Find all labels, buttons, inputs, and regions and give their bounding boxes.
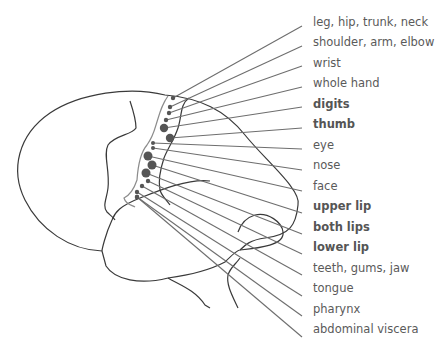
sylvian-fissure: [102, 181, 210, 251]
body-part-label: face: [313, 179, 338, 193]
body-part-label: thumb: [313, 117, 355, 131]
leader-line: [166, 87, 302, 120]
leader-line: [148, 181, 302, 254]
temporal-lobe-outline: [102, 214, 283, 281]
body-part-label: abdominal viscera: [313, 322, 418, 336]
region-dot: [142, 169, 151, 178]
leader-line: [170, 46, 302, 107]
region-dot: [144, 152, 153, 161]
region-dot: [135, 195, 139, 199]
body-part-label: tongue: [313, 281, 354, 295]
leader-line: [137, 192, 302, 296]
body-part-label: nose: [313, 158, 340, 172]
region-dot: [151, 146, 155, 150]
region-dot: [135, 190, 139, 194]
region-dot: [167, 111, 171, 115]
body-part-label: digits: [313, 97, 350, 111]
region-dot: [160, 124, 168, 132]
body-part-label: upper lip: [313, 199, 371, 213]
leader-line: [153, 143, 302, 149]
homunculus-diagram: leg, hip, trunk, neckshoulder, arm, elbo…: [0, 0, 442, 353]
leader-line: [148, 156, 302, 191]
region-dot: [140, 184, 144, 188]
leader-line: [142, 186, 302, 275]
brainstem: [168, 258, 240, 308]
region-dot: [151, 141, 155, 145]
region-dot: [148, 161, 157, 170]
body-part-label: leg, hip, trunk, neck: [313, 15, 428, 29]
body-part-label: teeth, gums, jaw: [313, 261, 410, 275]
leader-line: [153, 148, 302, 170]
leader-line: [170, 128, 302, 138]
body-part-label: both lips: [313, 220, 370, 234]
region-dot: [171, 96, 175, 100]
leader-lines: [137, 26, 302, 337]
body-part-label: shoulder, arm, elbow: [313, 35, 434, 49]
leader-line: [137, 197, 302, 337]
body-part-label: lower lip: [313, 240, 369, 254]
leader-line: [173, 26, 302, 98]
body-part-label: pharynx: [313, 302, 360, 316]
region-dot: [146, 179, 150, 183]
body-part-label: eye: [313, 138, 334, 152]
leader-line: [164, 107, 302, 128]
body-part-label: whole hand: [313, 76, 380, 90]
region-dot: [166, 134, 174, 142]
body-part-label: wrist: [313, 56, 341, 70]
brain-outline: [18, 91, 299, 251]
brain-illustration: [0, 0, 442, 353]
region-dot: [168, 105, 172, 109]
region-dot: [164, 118, 168, 122]
